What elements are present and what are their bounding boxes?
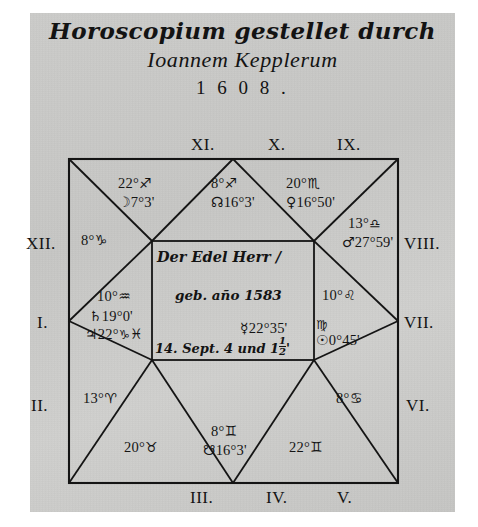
- house-label-iv: IV.: [266, 488, 288, 508]
- house-ix-annotation: 20°♏ ♀16°50': [286, 176, 335, 210]
- vee-bottom-left: [152, 360, 233, 483]
- cancer-icon: ♋: [350, 390, 363, 406]
- sun-icon: ☉: [316, 332, 329, 348]
- jupiter-icon: ♃: [85, 326, 98, 342]
- sun-position: 0°45': [329, 332, 360, 348]
- house-label-ix: IX.: [337, 135, 361, 155]
- house-label-xi: XI.: [191, 135, 215, 155]
- house-label-iii: III.: [190, 488, 213, 508]
- house-ii-annotation: 13°♈: [83, 391, 117, 407]
- jupiter-position: 22°: [98, 326, 119, 342]
- house-v-annotation: 22°♊: [289, 440, 323, 456]
- house-vi-annotation: 8°♋: [336, 391, 363, 407]
- mars-icon: ♂: [342, 234, 355, 250]
- cusp-v-degree: 22°: [289, 439, 310, 455]
- cusp-vi-degree: 8°: [336, 390, 350, 406]
- house-iv-annotation: 8°♊ ☋16°3': [211, 424, 247, 458]
- center-line-3-prefix: 14. Sept. 4 und 1: [155, 341, 279, 356]
- cusp-ii-degree: 13°: [83, 390, 104, 406]
- center-inscription: Der Edel Herr / geb. año 1583 14. Sept. …: [153, 242, 313, 360]
- taurus-icon: ♉: [145, 439, 158, 455]
- cusp-viii-degree: 13°: [348, 215, 369, 231]
- cusp-iii-degree: 20°: [124, 439, 145, 455]
- house-label-v: V.: [337, 488, 352, 508]
- capricorn-icon: ♑: [119, 327, 130, 342]
- house-label-vii: VII.: [404, 313, 434, 333]
- aries-icon: ♈: [104, 390, 117, 406]
- north-node-icon: ☊: [211, 194, 224, 210]
- cusp-i-degree: 10°: [97, 288, 118, 304]
- cusp-x-degree: 8°: [211, 175, 225, 191]
- vee-right-top: [314, 241, 398, 321]
- center-line-3-suffix: ': [286, 341, 290, 356]
- cusp-vii-degree: 10°: [322, 287, 343, 303]
- horoscope-page: Horoscopium gestellet durch Ioannem Kepp…: [0, 0, 478, 527]
- center-line-1: Der Edel Herr /: [157, 248, 281, 265]
- center-line-2: geb. año 1583: [175, 287, 282, 303]
- leo-icon: ♌: [343, 287, 356, 303]
- house-label-x: X.: [268, 135, 286, 155]
- house-label-ii: II.: [31, 396, 48, 416]
- house-iii-annotation: 20°♉: [124, 440, 158, 456]
- center-line-3: 14. Sept. 4 und 112': [155, 336, 290, 356]
- moon-icon: ☽: [118, 194, 131, 210]
- house-i-annotation: 10°♒ ♄19°0' ♃22°♑♓: [97, 289, 143, 343]
- diagonal-br: [314, 360, 398, 483]
- libra-icon: ♎: [369, 216, 381, 231]
- cusp-xii-degree: 8°: [81, 232, 95, 248]
- cusp-xi-degree: 22°: [118, 175, 139, 191]
- virgo-icon: ♍: [316, 317, 328, 332]
- saturn-position: 19°0': [102, 308, 133, 324]
- cusp-ix-degree: 20°: [286, 175, 307, 191]
- house-xii-annotation: 8°♑: [81, 233, 108, 249]
- mars-position: 27°59': [355, 234, 394, 250]
- cusp-iv-degree: 8°: [211, 423, 225, 439]
- house-label-viii: VIII.: [404, 234, 440, 254]
- vee-bottom-right: [233, 360, 314, 483]
- house-label-xii: XII.: [26, 234, 56, 254]
- south-node-position: 16°3': [216, 442, 247, 458]
- house-xi-annotation: 22°♐ ☽7°3': [118, 176, 154, 210]
- diagonal-bl: [69, 360, 152, 483]
- house-label-i: I.: [37, 313, 48, 333]
- sagittarius-icon: ♐: [139, 175, 152, 191]
- house-viii-annotation: 13°♎ ♂27°59': [348, 216, 393, 250]
- north-node-position: 16°3': [224, 194, 255, 210]
- aquarius-icon: ♒: [118, 288, 131, 304]
- house-vii-annotation: 10°♌: [322, 288, 356, 304]
- scorpio-icon: ♏: [307, 175, 320, 191]
- gemini-icon: ♊: [225, 423, 238, 439]
- sun-annotation: ♍ ☉0°45': [316, 318, 360, 349]
- gemini-icon: ♊: [310, 439, 323, 455]
- moon-position: 7°3': [131, 194, 155, 210]
- sagittarius-icon: ♐: [225, 175, 238, 191]
- capricorn-icon: ♑: [95, 232, 108, 248]
- venus-icon: ♀: [286, 194, 296, 210]
- house-label-vi: VI.: [406, 396, 430, 416]
- venus-position: 16°50': [296, 194, 335, 210]
- pisces-icon: ♓: [130, 326, 143, 342]
- house-x-annotation: 8°♐ ☊16°3': [211, 176, 255, 210]
- south-node-icon: ☋: [203, 442, 216, 458]
- saturn-icon: ♄: [89, 308, 102, 324]
- horoscope-chart: XI. X. IX. VIII. VII. VI. V. IV. III. II…: [0, 0, 478, 527]
